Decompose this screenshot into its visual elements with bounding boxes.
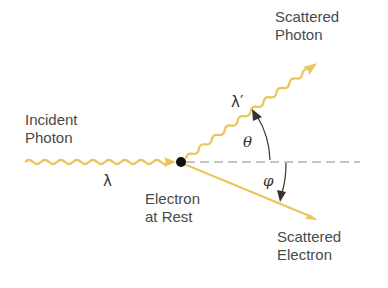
phi-arrowhead (277, 190, 286, 202)
incident-photon-wave (25, 160, 169, 164)
theta-arrowhead (252, 109, 262, 121)
label-theta: θ (243, 133, 252, 151)
label-phi: φ (263, 172, 274, 190)
label-lambda: λ (103, 172, 112, 190)
scattered-electron-path (184, 164, 312, 217)
theta-arc (257, 116, 270, 160)
label-lambda-prime: λ′ (231, 93, 243, 111)
label-scattered-electron: Scattered Electron (277, 228, 341, 264)
label-scattered-photon: Scattered Photon (275, 8, 339, 44)
scattered-photon-arrowhead (303, 59, 319, 75)
incident-photon-arrowhead (164, 157, 176, 167)
label-electron-at-rest: Electron at Rest (145, 190, 200, 226)
electron-dot (176, 157, 186, 167)
label-incident-photon: Incident Photon (25, 111, 78, 147)
phi-arc (282, 163, 286, 193)
